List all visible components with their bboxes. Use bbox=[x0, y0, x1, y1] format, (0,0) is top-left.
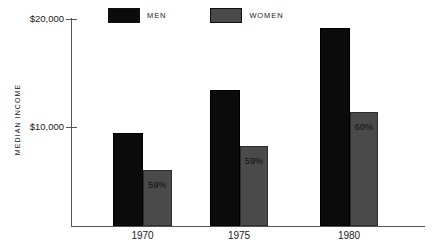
plot-area: 59% 59% 60% bbox=[71, 18, 425, 226]
bar-group-1975: 59% bbox=[210, 18, 268, 226]
bar-women-1970[interactable]: 59% bbox=[143, 170, 172, 226]
x-tick-label-1970: 1970 bbox=[113, 230, 172, 241]
bar-group-1980: 60% bbox=[320, 18, 378, 226]
y-tick-label-20000: $20,000 bbox=[12, 13, 64, 24]
y-axis-title: MEDIAN INCOME bbox=[14, 77, 21, 163]
x-tick-label-1980: 1980 bbox=[320, 230, 378, 241]
bar-men-1970[interactable] bbox=[113, 133, 143, 226]
median-income-bar-chart: MEN WOMEN MEDIAN INCOME $20,000 $10,000 … bbox=[0, 0, 442, 248]
x-tick-label-1975: 1975 bbox=[210, 230, 268, 241]
bar-men-1980[interactable] bbox=[320, 28, 350, 226]
bar-pct-label-1970: 59% bbox=[144, 180, 171, 190]
bar-women-1980[interactable]: 60% bbox=[350, 112, 378, 226]
bar-pct-label-1980: 60% bbox=[351, 122, 377, 132]
bar-pct-label-1975: 59% bbox=[241, 156, 267, 166]
y-tick-label-10000: $10,000 bbox=[12, 121, 64, 132]
bar-group-1970: 59% bbox=[113, 18, 172, 226]
bar-women-1975[interactable]: 59% bbox=[240, 146, 268, 226]
bar-men-1975[interactable] bbox=[210, 90, 240, 226]
x-axis-line bbox=[71, 226, 425, 227]
